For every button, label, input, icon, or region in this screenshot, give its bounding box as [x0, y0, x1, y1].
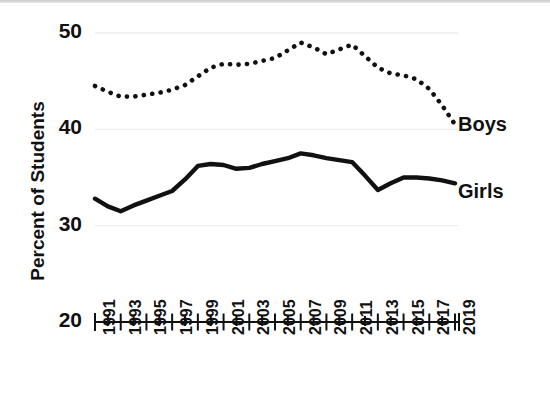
x-tick-label-2009: 2009: [332, 299, 350, 335]
x-tick-label-2003: 2003: [255, 299, 273, 335]
x-tick-label-1993: 1993: [127, 299, 145, 335]
x-tick-label-1999: 1999: [204, 299, 222, 335]
x-tick-label-2001: 2001: [230, 299, 248, 335]
x-tick-label-2011: 2011: [358, 300, 376, 335]
x-tick-label-2015: 2015: [410, 299, 428, 335]
x-tick-label-2005: 2005: [281, 299, 299, 335]
x-tick-label-2013: 2013: [384, 299, 402, 335]
x-tick-label-2007: 2007: [307, 299, 325, 335]
chart-root: Percent of Students 20304050 19911993199…: [0, 0, 550, 413]
y-tick-label-30: 30: [36, 212, 82, 236]
series-line-boys: [95, 43, 455, 125]
line-chart-plot: [0, 0, 550, 413]
series-line-girls: [95, 153, 455, 211]
y-tick-label-20: 20: [36, 308, 82, 332]
series-label-girls: Girls: [458, 180, 504, 203]
x-tick-label-2019: 2019: [461, 299, 479, 335]
x-tick-label-1995: 1995: [152, 299, 170, 335]
y-tick-label-50: 50: [36, 19, 82, 43]
x-tick-label-2017: 2017: [435, 299, 453, 335]
x-tick-label-1991: 1991: [101, 299, 119, 335]
x-tick-label-1997: 1997: [178, 299, 196, 335]
y-axis-title: Percent of Students: [27, 71, 49, 311]
series-label-boys: Boys: [458, 113, 507, 136]
y-tick-label-40: 40: [36, 115, 82, 139]
